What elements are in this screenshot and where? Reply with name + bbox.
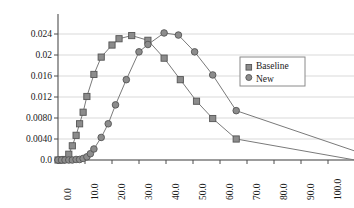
data-point-marker	[209, 72, 216, 79]
x-axis-tick-label: 100.0	[333, 179, 343, 200]
data-point-marker	[73, 132, 79, 138]
x-axis-tick-label: 30.0	[144, 183, 154, 200]
data-point-marker	[98, 134, 105, 141]
x-axis-tick-label: 60.0	[225, 183, 235, 200]
x-axis-tick-label: 0.0	[63, 188, 73, 200]
data-point-marker	[84, 93, 90, 99]
data-point-marker	[136, 49, 143, 56]
data-point-marker	[233, 107, 240, 114]
x-axis-tick-label: 90.0	[306, 183, 316, 200]
data-point-marker	[91, 71, 97, 77]
data-point-marker	[210, 115, 216, 121]
data-point-marker	[145, 41, 152, 48]
gridlines	[58, 34, 354, 160]
data-point-marker	[112, 102, 119, 109]
data-point-marker	[98, 54, 104, 60]
data-point-marker	[191, 49, 198, 56]
chart-plot-area	[0, 0, 354, 208]
legend-marker-square	[246, 65, 252, 71]
x-axis-tick-label: 10.0	[90, 183, 100, 200]
series-baseline	[55, 32, 354, 163]
y-axis-tick-label: 0.024	[31, 29, 52, 39]
legend-marker-circle	[246, 75, 252, 81]
data-point-marker	[193, 98, 199, 104]
data-point-marker	[233, 136, 239, 142]
data-point-marker	[123, 76, 130, 83]
y-axis-tick-label: 0.0080	[26, 113, 52, 123]
data-point-marker	[109, 42, 115, 48]
chart-container: 0.00.00400.00800.0120.0160.020.0240.010.…	[0, 0, 354, 208]
data-point-marker	[175, 32, 182, 39]
data-point-marker	[105, 120, 112, 127]
legend-label-new: New	[256, 74, 274, 84]
legend-label-baseline: Baseline	[256, 61, 289, 71]
data-point-marker	[129, 32, 135, 38]
y-axis-tick-label: 0.016	[31, 71, 52, 81]
x-axis-tick-label: 50.0	[198, 183, 208, 200]
y-axis-tick-label: 0.012	[31, 92, 52, 102]
data-point-marker	[69, 143, 75, 149]
data-point-marker	[161, 55, 167, 61]
data-point-marker	[80, 109, 86, 115]
series-new	[55, 30, 354, 164]
y-axis-tick-label: 0.02	[35, 50, 52, 60]
x-axis-tick-label: 20.0	[117, 183, 127, 200]
data-point-marker	[177, 77, 183, 83]
data-point-marker	[91, 146, 98, 153]
data-point-marker	[77, 121, 83, 127]
y-axis-tick-label: 0.0	[40, 155, 52, 165]
x-axis-tick-label: 70.0	[252, 183, 262, 200]
x-axis-tick-label: 40.0	[171, 183, 181, 200]
y-axis-tick-label: 0.0040	[26, 134, 52, 144]
data-point-marker	[161, 30, 168, 37]
data-point-marker	[116, 36, 122, 42]
x-axis-tick-label: 80.0	[279, 183, 289, 200]
